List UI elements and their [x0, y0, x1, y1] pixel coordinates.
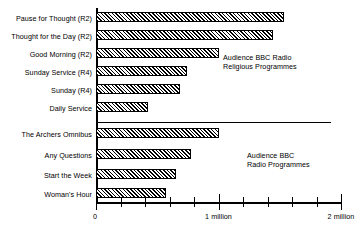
axis-tick-0 — [96, 194, 97, 210]
category-label-thought-for-the-day-r2: Thought for the Day (R2) — [11, 33, 92, 41]
axis-tick-800000 — [194, 197, 195, 207]
category-label-the-archers-omnibus: The Archers Omnibus — [22, 131, 92, 139]
plot-area: Audience BBC Radio Religious Programmes … — [96, 0, 356, 231]
axis-tick-200000 — [121, 197, 122, 207]
bar-start-the-week — [96, 169, 176, 179]
category-label-sunday-service-r4: Sunday Service (R4) — [25, 69, 92, 77]
bar-sunday-service-r4 — [96, 66, 187, 76]
category-label-good-morning-r2: Good Morning (R2) — [30, 51, 92, 59]
axis-tick-1400000 — [268, 197, 269, 207]
category-label-pause-for-thought-r2: Pause for Thought (R2) — [16, 15, 92, 23]
group-separator-line — [96, 122, 331, 123]
category-label-any-questions: Any Questions — [45, 152, 92, 160]
category-label-sunday-r4: Sunday (R4) — [51, 87, 92, 95]
annotation-religious-programmes: Audience BBC Radio Religious Programmes — [223, 53, 297, 71]
axis-tick-600000 — [170, 197, 171, 207]
bar-sunday-r4 — [96, 84, 180, 94]
bar-pause-for-thought-r2 — [96, 12, 284, 22]
category-label-daily-service: Daily Service — [49, 105, 92, 113]
category-label-start-the-week: Start the Week — [44, 172, 92, 180]
bar-daily-service — [96, 102, 148, 112]
axis-tick-1000000 — [219, 194, 220, 210]
axis-tick-label-1m: 1 million — [205, 212, 232, 221]
axis-tick-1600000 — [292, 197, 293, 207]
axis-tick-1200000 — [243, 197, 244, 207]
bar-the-archers-omnibus — [96, 128, 219, 138]
axis-tick-label-0: 0 — [93, 212, 97, 221]
bar-good-morning-r2 — [96, 48, 219, 58]
category-label-column: Pause for Thought (R2) Thought for the D… — [0, 0, 92, 231]
bar-womans-hour — [96, 188, 166, 198]
bar-chart: Pause for Thought (R2) Thought for the D… — [0, 0, 356, 231]
axis-tick-2000000 — [341, 194, 342, 210]
category-label-womans-hour: Woman's Hour — [44, 191, 92, 199]
bar-any-questions — [96, 149, 191, 159]
axis-tick-400000 — [145, 197, 146, 207]
axis-tick-label-2m: 2 million — [328, 212, 355, 221]
axis-tick-1800000 — [317, 197, 318, 207]
bar-thought-for-the-day-r2 — [96, 30, 273, 40]
annotation-radio-programmes: Audience BBC Radio Programmes — [247, 151, 310, 169]
